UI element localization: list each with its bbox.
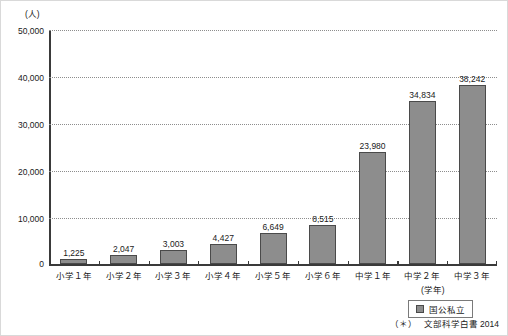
bar-slot: 4,427	[198, 30, 248, 264]
bar-slot: 1,225	[49, 30, 99, 264]
chart-legend: 国公私立	[408, 300, 473, 318]
bar-value-label: 3,003	[163, 239, 184, 249]
bar-elementary-2[interactable]: 2,047	[110, 255, 137, 265]
bar-slot: 34,834	[397, 30, 447, 264]
bar-elementary-6[interactable]: 8,515	[309, 225, 336, 265]
source-note-marker: （＊）	[390, 317, 417, 329]
bar-junior-2[interactable]: 34,834	[409, 101, 436, 264]
bar-elementary-4[interactable]: 4,427	[210, 244, 237, 265]
y-tick-label-50000: 50,000	[18, 26, 44, 36]
bar-elementary-3[interactable]: 3,003	[160, 250, 187, 264]
bar-slot: 23,980	[348, 30, 398, 264]
x-label-junior-1: 中学１年	[348, 269, 398, 281]
y-tick-label-40000: 40,000	[18, 73, 44, 83]
x-label-junior-3: 中学３年	[447, 269, 497, 281]
x-label-junior-2: 中学２年	[397, 269, 447, 281]
x-label-elementary-1: 小学１年	[49, 269, 99, 281]
bar-value-label: 1,225	[63, 248, 84, 258]
bar-value-label: 8,515	[312, 214, 333, 224]
bar-value-label: 34,834	[409, 90, 435, 100]
x-label-elementary-2: 小学２年	[99, 269, 149, 281]
bar-elementary-5[interactable]: 6,649	[260, 233, 287, 264]
bar-chart-figure: (人) 50,000 40,000 30,000 20,000 10,000 0	[0, 0, 508, 336]
bar-value-label: 23,980	[360, 141, 386, 151]
bar-series-group: 1,225 2,047 3,003 4,427 6,649	[49, 30, 497, 264]
y-tick-label-30000: 30,000	[18, 120, 44, 130]
bar-junior-3[interactable]: 38,242	[459, 85, 486, 264]
x-axis-line	[49, 264, 497, 266]
x-label-elementary-6: 小学６年	[298, 269, 348, 281]
y-tick-label-0: 0	[39, 259, 44, 269]
bar-slot: 2,047	[99, 30, 149, 264]
bar-value-label: 38,242	[459, 74, 485, 84]
x-label-elementary-4: 小学４年	[198, 269, 248, 281]
x-label-elementary-3: 小学３年	[149, 269, 199, 281]
y-tick-label-10000: 10,000	[18, 214, 44, 224]
source-note: （＊） 文部科学白書 2014	[390, 317, 499, 329]
y-tick-label-20000: 20,000	[18, 167, 44, 177]
legend-swatch-icon	[416, 305, 424, 313]
plot-area: 50,000 40,000 30,000 20,000 10,000 0	[49, 30, 497, 266]
bar-slot: 8,515	[298, 30, 348, 264]
x-label-elementary-5: 小学５年	[248, 269, 298, 281]
x-axis-unit-label: (学年)	[421, 283, 445, 295]
bar-value-label: 2,047	[113, 244, 134, 254]
bar-slot: 38,242	[447, 30, 497, 264]
bar-junior-1[interactable]: 23,980	[359, 152, 386, 264]
x-axis-category-labels: 小学１年 小学２年 小学３年 小学４年 小学５年 小学６年 中学１年 中学２年 …	[49, 269, 497, 281]
bar-slot: 3,003	[149, 30, 199, 264]
bar-slot: 6,649	[248, 30, 298, 264]
y-axis-unit-label: (人)	[25, 7, 40, 19]
bar-value-label: 6,649	[262, 222, 283, 232]
legend-series-label: 国公私立	[429, 303, 465, 315]
source-note-text: 文部科学白書 2014	[424, 317, 499, 329]
bar-elementary-1[interactable]: 1,225	[60, 259, 87, 265]
bar-value-label: 4,427	[213, 233, 234, 243]
